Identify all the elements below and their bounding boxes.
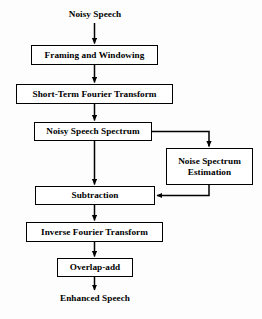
- node-short-term-fourier-transform: Short-Term Fourier Transform: [16, 84, 173, 104]
- node-subtraction-label: Subtraction: [71, 190, 118, 201]
- edge-noise-estimation-to-subtraction: [157, 185, 209, 196]
- node-noise-spectrum-estimation-label: Noise Spectrum Estimation: [178, 156, 241, 178]
- node-noisy-speech-spectrum: Noisy Speech Spectrum: [34, 122, 152, 141]
- node-framing-and-windowing: Framing and Windowing: [31, 45, 158, 65]
- node-noisy-speech-spectrum-label: Noisy Speech Spectrum: [46, 126, 139, 137]
- node-inverse-fourier-transform-label: Inverse Fourier Transform: [41, 227, 148, 238]
- output-label: Enhanced Speech: [0, 293, 190, 304]
- node-overlap-add: Overlap-add: [57, 258, 133, 277]
- node-short-term-fourier-transform-label: Short-Term Fourier Transform: [32, 89, 156, 100]
- edge-spectrum-to-noise-estimation: [152, 132, 209, 147]
- flowchart-diagram: Noisy Speech Framing and Windowing Short…: [0, 0, 262, 319]
- node-subtraction: Subtraction: [35, 186, 155, 205]
- node-overlap-add-label: Overlap-add: [70, 262, 121, 273]
- output-label-text: Enhanced Speech: [60, 293, 130, 303]
- node-noise-spectrum-estimation: Noise Spectrum Estimation: [166, 148, 253, 185]
- input-label-text: Noisy Speech: [69, 9, 121, 19]
- node-inverse-fourier-transform: Inverse Fourier Transform: [26, 222, 163, 242]
- input-label: Noisy Speech: [0, 9, 190, 20]
- node-framing-and-windowing-label: Framing and Windowing: [45, 50, 145, 61]
